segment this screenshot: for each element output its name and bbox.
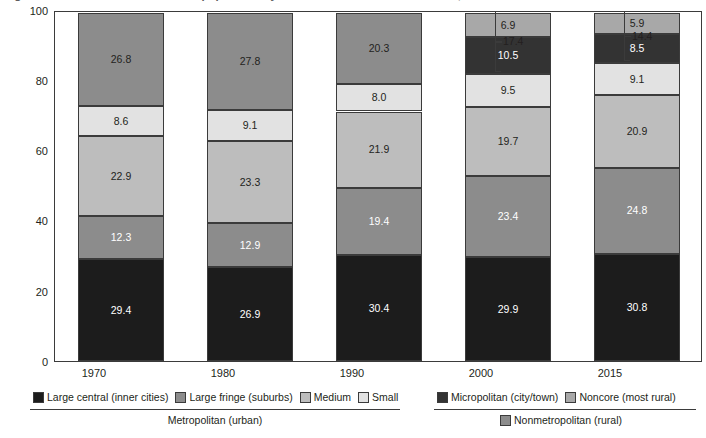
bar-segment-value: 19.7 — [498, 136, 518, 147]
legend-item-label: Medium — [314, 391, 351, 403]
bar-segment: 20.3 — [336, 13, 422, 84]
legend-rule-nonmetropolitan — [434, 409, 696, 410]
legend: Large central (inner cities)Large fringe… — [0, 390, 706, 438]
chart-title-cropped: Figure 1. Percent distribution of the po… — [0, 0, 706, 7]
bracket-tick-middle — [496, 41, 502, 42]
legend-item-label: Noncore (most rural) — [579, 391, 675, 403]
bracket-tick-bottom — [624, 60, 630, 61]
bracket-tick-middle — [625, 36, 631, 37]
bar-segment: 29.4 — [78, 259, 164, 361]
bar-segment-value: 9.5 — [501, 85, 516, 96]
legend-group-label-nonmetropolitan: Nonmetropolitan (rural) — [514, 414, 622, 426]
bar-segment-value: 12.9 — [240, 240, 260, 251]
bar-segment-value: 8.0 — [372, 92, 387, 103]
bar-segment-value: 9.1 — [243, 120, 258, 131]
bar-1970: 29.412.322.98.626.8 — [78, 12, 164, 361]
bar-segment-value: 12.3 — [111, 232, 131, 243]
bar-segment: 26.8 — [78, 13, 164, 106]
legend-item[interactable]: Large central (inner cities) — [33, 391, 168, 403]
legend-rule-metropolitan — [30, 409, 400, 410]
legend-swatch-large-central — [33, 392, 44, 403]
y-tick-60: 60 — [0, 145, 48, 157]
bars-container: 29.412.322.98.626.826.912.923.39.127.830… — [55, 12, 701, 361]
bar-segment-value: 20.9 — [627, 126, 647, 137]
bar-segment-value: 26.8 — [111, 54, 131, 65]
bar-segment-value: 22.9 — [111, 171, 131, 182]
bar-segment: 30.8 — [594, 254, 680, 361]
bar-1990: 30.419.421.98.020.3 — [336, 12, 422, 361]
bar-segment-value: 29.9 — [498, 304, 518, 315]
legend-row-metropolitan: Large central (inner cities)Large fringe… — [33, 391, 405, 403]
bar-segment: 26.9 — [207, 267, 293, 361]
bar-2015: 30.824.820.99.18.55.9 — [594, 12, 680, 361]
legend-item[interactable]: Small — [358, 391, 398, 403]
bar-segment-value: 19.4 — [369, 216, 389, 227]
bar-segment-value: 27.8 — [240, 56, 260, 67]
legend-item-label: Micropolitan (city/town) — [451, 391, 558, 403]
bar-segment-value: 8.6 — [114, 116, 129, 127]
legend-swatch-medium — [300, 392, 311, 403]
bar-segment: 9.1 — [594, 63, 680, 95]
bracket-label: 14.4 — [632, 30, 652, 42]
bar-segment-value: 24.8 — [627, 205, 647, 216]
legend-swatch-noncore — [565, 392, 576, 403]
bar-segment: 8.0 — [336, 84, 422, 112]
bar-segment: 20.9 — [594, 95, 680, 168]
x-tick-2015: 2015 — [550, 367, 670, 379]
bar-segment-value: 23.3 — [240, 177, 260, 188]
legend-item[interactable]: Medium — [300, 391, 351, 403]
x-tick-2000: 2000 — [421, 367, 541, 379]
y-tick-20: 20 — [0, 286, 48, 298]
legend-item-label: Large central (inner cities) — [47, 391, 168, 403]
chart-area: Percent distribution 100 80 60 40 20 0 2… — [0, 7, 706, 390]
x-tick-1980: 1980 — [163, 367, 283, 379]
bracket-tick-top — [624, 11, 630, 12]
legend-swatch-nonmetropolitan — [500, 415, 511, 426]
bracket-2015: 14.4 — [624, 11, 694, 61]
bar-segment: 12.9 — [207, 223, 293, 268]
bar-segment: 21.9 — [336, 112, 422, 188]
legend-swatch-small — [358, 392, 369, 403]
bar-segment: 19.7 — [465, 107, 551, 176]
legend-item[interactable]: Noncore (most rural) — [565, 391, 675, 403]
legend-item[interactable]: Micropolitan (city/town) — [437, 391, 558, 403]
bar-segment: 24.8 — [594, 168, 680, 254]
bar-segment-value: 30.8 — [627, 302, 647, 313]
bar-segment: 27.8 — [207, 13, 293, 110]
legend-row-nonmetropolitan: Micropolitan (city/town)Noncore (most ru… — [437, 391, 683, 403]
bar-segment-value: 30.4 — [369, 303, 389, 314]
y-tick-100: 100 — [0, 5, 48, 17]
bar-segment-value: 20.3 — [369, 43, 389, 54]
legend-item-label: Small — [372, 391, 398, 403]
bar-segment: 12.3 — [78, 216, 164, 259]
legend-swatch-micropolitan — [437, 392, 448, 403]
bar-segment-value: 29.4 — [111, 305, 131, 316]
bar-segment: 23.3 — [207, 141, 293, 222]
bar-segment: 9.5 — [465, 74, 551, 107]
bar-segment-value: 23.4 — [498, 211, 518, 222]
bar-segment: 29.9 — [465, 257, 551, 361]
bar-segment: 22.9 — [78, 136, 164, 216]
legend-item-label: Large fringe (suburbs) — [189, 391, 292, 403]
bar-segment: 23.4 — [465, 176, 551, 257]
bar-segment-value: 26.9 — [240, 309, 260, 320]
bar-segment-value: 21.9 — [369, 144, 389, 155]
bar-1980: 26.912.923.39.127.8 — [207, 12, 293, 361]
y-tick-40: 40 — [0, 215, 48, 227]
legend-swatch-large-fringe — [175, 392, 186, 403]
chart-title-text: Figure 1. Percent distribution of the po… — [4, 0, 522, 1]
y-tick-80: 80 — [0, 75, 48, 87]
legend-item[interactable]: Large fringe (suburbs) — [175, 391, 292, 403]
plot-area: 29.412.322.98.626.826.912.923.39.127.830… — [54, 11, 702, 362]
bracket-tick-bottom — [495, 71, 501, 72]
bracket-2000: 17.4 — [495, 11, 565, 72]
bar-segment: 19.4 — [336, 188, 422, 256]
bar-segment: 30.4 — [336, 255, 422, 361]
bar-segment: 9.1 — [207, 110, 293, 142]
bar-segment-value: 9.1 — [630, 74, 645, 85]
x-tick-1970: 1970 — [34, 367, 154, 379]
bar-segment: 8.6 — [78, 106, 164, 136]
bracket-label: 17.4 — [503, 35, 523, 47]
bracket-tick-top — [495, 11, 501, 12]
x-tick-1990: 1990 — [292, 367, 412, 379]
